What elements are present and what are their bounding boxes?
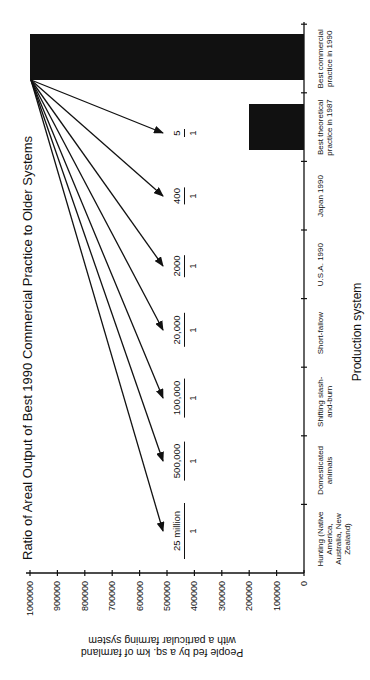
category-label: Short-fallow — [316, 300, 325, 366]
ratio-fraction-bar — [184, 255, 185, 277]
value-axis-title: People fed by a sq. km of farmland with … — [81, 635, 243, 659]
category-label: Shifting slash-and-burn — [316, 369, 334, 435]
bar-best-commercial-1990 — [30, 34, 304, 80]
value-tick-label: 0 — [299, 581, 309, 629]
bar-best-theoretical-1987 — [249, 104, 304, 150]
ratio-numerator: 5 — [171, 129, 182, 137]
ratio-denominator: 1 — [187, 188, 198, 205]
category-label: Japan 1990 — [316, 163, 325, 229]
ratio-fraction-bar — [184, 188, 185, 205]
ratio-numerator: 20,000 — [171, 313, 182, 347]
ratio-label: 500,0001 — [171, 441, 198, 480]
value-tick-label: 200000 — [244, 581, 254, 629]
category-label: Domesticated animals — [316, 437, 334, 503]
ratio-label: 20,0001 — [171, 313, 198, 347]
ratio-fraction-bar — [184, 503, 185, 559]
ratio-denominator: 1 — [187, 441, 198, 480]
value-axis-title-line-1: People fed by a sq. km of farmland — [81, 647, 243, 659]
ratio-denominator: 1 — [187, 129, 198, 137]
ratio-numerator: 2000 — [171, 255, 182, 277]
ratio-label: 100,0001 — [171, 378, 198, 417]
ratio-numerator: 500,000 — [171, 441, 182, 480]
value-tick-label: 700000 — [107, 581, 117, 629]
ratio-fraction-bar — [184, 441, 185, 480]
ratio-label: 25 million1 — [171, 503, 198, 559]
category-label: Best theoretical practice in 1987 — [316, 94, 334, 160]
value-tick-label: 400000 — [189, 581, 199, 629]
ratio-fraction-bar — [184, 129, 185, 137]
value-tick-label: 800000 — [80, 581, 90, 629]
ratio-fraction-bar — [184, 378, 185, 417]
ratio-denominator: 1 — [187, 503, 198, 559]
category-label: U.S.A. 1990 — [316, 232, 325, 298]
value-tick-label: 300000 — [217, 581, 227, 629]
value-tick-label: 1000000 — [25, 581, 35, 629]
chart-title: Ratio of Areal Output of Best 1990 Comme… — [20, 136, 35, 560]
value-tick-label: 600000 — [135, 581, 145, 629]
ratio-arrow — [31, 80, 163, 531]
ratio-fraction-bar — [184, 313, 185, 347]
ratio-numerator: 25 million — [171, 503, 182, 559]
ratio-numerator: 100,000 — [171, 378, 182, 417]
category-axis-title: Production system — [350, 283, 364, 382]
ratio-label: 51 — [171, 129, 198, 137]
ratio-label: 4001 — [171, 188, 198, 205]
value-axis-title-line-2: with a particular farming system — [81, 635, 243, 647]
category-label: Best commercial practice in 1990 — [316, 26, 334, 92]
ratio-denominator: 1 — [187, 378, 198, 417]
value-tick-label: 900000 — [52, 581, 62, 629]
ratio-denominator: 1 — [187, 313, 198, 347]
ratio-denominator: 1 — [187, 255, 198, 277]
ratio-arrows — [31, 80, 163, 531]
ratio-numerator: 400 — [171, 188, 182, 205]
ratio-arrow — [31, 80, 163, 330]
ratio-label: 20001 — [171, 255, 198, 277]
value-axis — [26, 570, 304, 576]
value-tick-label: 100000 — [272, 581, 282, 629]
category-label: Hunting (Native America, Australia, New … — [316, 506, 352, 572]
chart-frame: Ratio of Areal Output of Best 1990 Comme… — [0, 0, 370, 680]
value-tick-label: 500000 — [162, 581, 172, 629]
ratio-arrow — [31, 80, 163, 133]
